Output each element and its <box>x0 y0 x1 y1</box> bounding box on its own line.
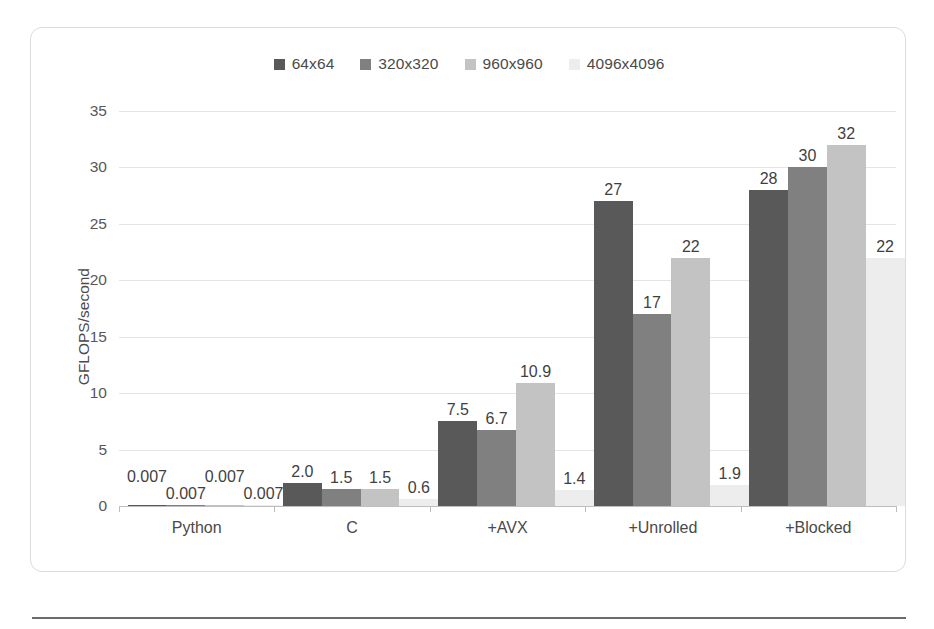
y-axis-tick-label: 25 <box>90 215 107 233</box>
bar-value-label: 30 <box>799 148 817 164</box>
bar-value-label: 17 <box>643 295 661 311</box>
bar-value-label: 1.5 <box>369 470 391 486</box>
bar-group: 2717221.9+Unrolled <box>585 111 740 506</box>
bar[interactable]: 6.7 <box>477 430 516 506</box>
bar-value-label: 0.007 <box>166 486 206 502</box>
x-axis-category-label: +Blocked <box>741 519 896 537</box>
bar[interactable]: 28 <box>749 190 788 506</box>
bar[interactable]: 10.9 <box>516 383 555 506</box>
bar[interactable]: 17 <box>633 314 672 506</box>
bar-value-label: 1.5 <box>330 470 352 486</box>
bar-slot: 0.007 <box>128 111 167 506</box>
legend-swatch-icon <box>274 59 285 70</box>
x-axis-line <box>119 506 896 507</box>
y-axis-tick-label: 20 <box>90 271 107 289</box>
bar-slot: 1.5 <box>361 111 400 506</box>
legend-item-label: 320x320 <box>378 55 438 73</box>
bar[interactable]: 1.5 <box>322 489 361 506</box>
bar-slot: 27 <box>594 111 633 506</box>
chart-frame: 64x64320x320960x9604096x4096 GFLOPS/seco… <box>30 27 906 572</box>
bar-value-label: 28 <box>760 171 778 187</box>
bar-slot: 2.0 <box>283 111 322 506</box>
bar-value-label: 22 <box>682 239 700 255</box>
chart-legend: 64x64320x320960x9604096x4096 <box>31 55 907 73</box>
bar-value-label: 22 <box>876 239 894 255</box>
y-axis-tick-label: 5 <box>98 441 107 459</box>
bar-group: 7.56.710.91.4+AVX <box>430 111 585 506</box>
bar[interactable]: 32 <box>827 145 866 506</box>
bar[interactable]: 22 <box>866 258 905 506</box>
bar-value-label: 1.9 <box>719 466 741 482</box>
x-axis-tick <box>585 506 586 512</box>
bar-slot: 10.9 <box>516 111 555 506</box>
x-axis-category-label: C <box>274 519 429 537</box>
bar-value-label: 32 <box>837 126 855 142</box>
legend-swatch-icon <box>569 59 580 70</box>
x-axis-tick <box>430 506 431 512</box>
bar[interactable]: 27 <box>594 201 633 506</box>
bar-value-label: 0.007 <box>127 469 167 485</box>
bar-value-label: 7.5 <box>447 402 469 418</box>
y-axis-tick-label: 10 <box>90 384 107 402</box>
legend-item[interactable]: 64x64 <box>274 55 335 73</box>
bar[interactable]: 2.0 <box>283 483 322 506</box>
bar[interactable]: 7.5 <box>438 421 477 506</box>
bar-value-label: 6.7 <box>485 411 507 427</box>
bar-slot: 7.5 <box>438 111 477 506</box>
x-axis-tick <box>274 506 275 512</box>
bar[interactable]: 0.007 <box>128 505 167 506</box>
bar[interactable]: 0.007 <box>205 505 244 506</box>
y-axis-tick-label: 15 <box>90 328 107 346</box>
x-axis-category-label: Python <box>119 519 274 537</box>
legend-item[interactable]: 4096x4096 <box>569 55 665 73</box>
page-bottom-rule <box>32 617 906 619</box>
legend-item-label: 64x64 <box>292 55 335 73</box>
bar-group: 28303222+Blocked <box>741 111 896 506</box>
bar-slot: 0.007 <box>205 111 244 506</box>
bar-value-label: 27 <box>604 182 622 198</box>
x-axis-tick <box>741 506 742 512</box>
bar[interactable]: 1.5 <box>361 489 400 506</box>
bar-slot: 0.007 <box>166 111 205 506</box>
bar-slot: 6.7 <box>477 111 516 506</box>
x-axis-category-label: +AVX <box>430 519 585 537</box>
bar-group: 0.0070.0070.0070.007Python <box>119 111 274 506</box>
y-axis-tick-label: 0 <box>98 497 107 515</box>
legend-item-label: 4096x4096 <box>587 55 665 73</box>
bar-value-label: 10.9 <box>520 364 551 380</box>
legend-swatch-icon <box>465 59 476 70</box>
bar-slot: 28 <box>749 111 788 506</box>
legend-item-label: 960x960 <box>483 55 543 73</box>
bar-value-label: 1.4 <box>563 471 585 487</box>
bar-slot: 17 <box>633 111 672 506</box>
bar[interactable]: 0.007 <box>166 505 205 506</box>
bar-value-label: 2.0 <box>291 464 313 480</box>
bar[interactable]: 30 <box>788 167 827 506</box>
bar-value-label: 0.007 <box>205 469 245 485</box>
x-axis-category-label: +Unrolled <box>585 519 740 537</box>
bar-slot: 1.5 <box>322 111 361 506</box>
plot-area: 05101520253035 0.0070.0070.0070.007Pytho… <box>119 111 896 506</box>
bar[interactable]: 22 <box>671 258 710 506</box>
legend-item[interactable]: 320x320 <box>360 55 438 73</box>
y-axis-tick-label: 30 <box>90 158 107 176</box>
legend-swatch-icon <box>360 59 371 70</box>
y-axis-tick-label: 35 <box>90 102 107 120</box>
x-axis-tick <box>896 506 897 512</box>
bar-slot: 22 <box>671 111 710 506</box>
x-axis-tick <box>119 506 120 512</box>
bar-value-label: 0.6 <box>408 480 430 496</box>
bar-slot: 30 <box>788 111 827 506</box>
bar-slot: 22 <box>866 111 905 506</box>
bar-group: 2.01.51.50.6C <box>274 111 429 506</box>
bar-slot: 32 <box>827 111 866 506</box>
legend-item[interactable]: 960x960 <box>465 55 543 73</box>
